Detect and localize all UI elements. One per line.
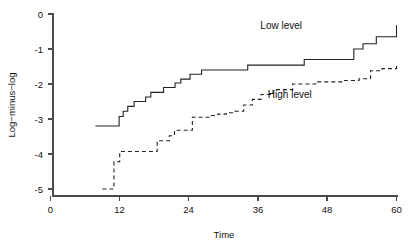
y-tick-label-1: -1 bbox=[35, 44, 43, 55]
series-high-level-line bbox=[102, 66, 396, 189]
y-tick-label-5: -5 bbox=[35, 184, 43, 195]
log-minus-log-chart: 0 -1 -2 -3 -4 -5 0 12 24 36 48 60 Time L… bbox=[0, 0, 415, 249]
x-axis-tick-labels: 0 12 24 36 48 60 bbox=[48, 204, 402, 215]
y-axis-title: Log−minus−log bbox=[6, 73, 17, 138]
series-label-low-level: Low level bbox=[260, 20, 302, 31]
series-low-level-line bbox=[95, 25, 396, 126]
x-tick-label-0: 0 bbox=[48, 204, 53, 215]
chart-canvas: 0 -1 -2 -3 -4 -5 0 12 24 36 48 60 Time L… bbox=[0, 0, 415, 249]
x-tick-label-36: 36 bbox=[253, 204, 264, 215]
y-axis-ticks bbox=[48, 14, 53, 189]
y-tick-label-0: 0 bbox=[38, 9, 43, 20]
x-tick-label-24: 24 bbox=[183, 204, 194, 215]
x-axis-ticks bbox=[51, 196, 397, 201]
x-tick-label-48: 48 bbox=[322, 204, 333, 215]
x-tick-label-12: 12 bbox=[114, 204, 125, 215]
x-tick-label-60: 60 bbox=[391, 204, 402, 215]
y-tick-label-2: -2 bbox=[35, 79, 43, 90]
x-axis-title: Time bbox=[214, 229, 235, 240]
y-tick-label-3: -3 bbox=[35, 114, 43, 125]
y-axis-tick-labels: 0 -1 -2 -3 -4 -5 bbox=[35, 9, 43, 195]
series-label-high-level: High level bbox=[268, 89, 312, 100]
y-tick-label-4: -4 bbox=[35, 149, 43, 160]
